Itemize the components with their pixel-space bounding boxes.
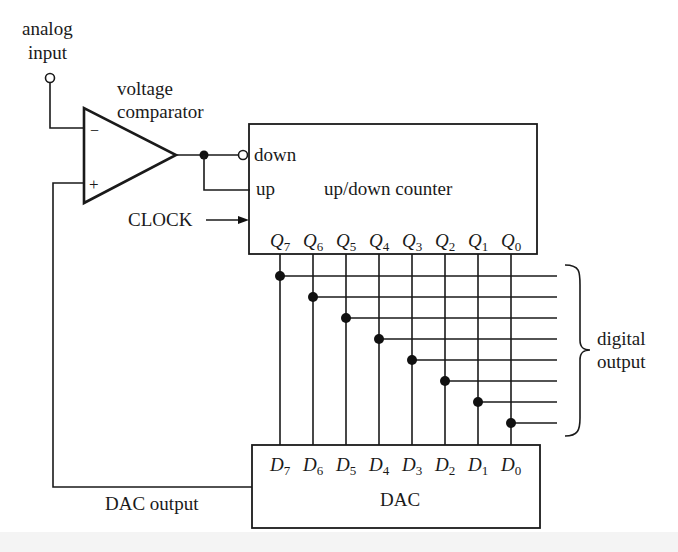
page-bottom-strip [0,532,678,552]
minus-sign: − [90,122,99,139]
analog-input-terminal [46,74,85,129]
dac-output-label: DAC output [105,493,199,514]
comparator-label-2: comparator [117,101,204,122]
svg-text:Q7: Q7 [270,230,291,254]
input-terminal-icon [46,74,55,83]
analog-input-label-2: input [28,42,68,63]
svg-text:D6: D6 [302,454,324,478]
clock-arrow-icon [238,216,249,224]
digital-output-brace-icon [565,265,590,436]
svg-text:D7: D7 [269,454,291,478]
svg-text:Q1: Q1 [468,230,488,254]
digital-output-label-1: digital [597,328,646,349]
svg-text:Q0: Q0 [501,230,521,254]
dac-box [252,445,540,528]
digital-output-label-2: output [597,351,646,372]
svg-text:D5: D5 [335,454,356,478]
clock-input [206,216,249,224]
svg-text:Q4: Q4 [369,230,390,254]
plus-sign: + [89,175,99,194]
svg-text:D4: D4 [368,454,390,478]
voltage-comparator: − + [84,108,176,203]
clock-label: CLOCK [128,209,193,230]
svg-text:Q2: Q2 [435,230,455,254]
digital-output-wires [280,276,557,423]
svg-text:Q5: Q5 [336,230,356,254]
dac-label: DAC [380,489,420,510]
counter-label: up/down counter [324,178,453,199]
counter-output-labels: Q7 Q6 Q5 Q4 Q3 Q2 Q1 Q0 [270,230,521,254]
svg-text:D2: D2 [434,454,455,478]
analog-input-wire [50,83,84,129]
svg-text:D0: D0 [500,454,521,478]
inverter-bubble-icon [239,151,248,160]
svg-text:Q6: Q6 [303,230,324,254]
up-input-label: up [256,178,275,199]
bus-vertical-wires [280,254,511,445]
comparator-label-1: voltage [117,78,173,99]
dac-input-labels: D7 D6 D5 D4 D3 D2 D1 D0 [269,454,521,478]
svg-text:D1: D1 [467,454,488,478]
analog-input-label-1: analog [22,18,73,39]
comparator-output [176,151,250,191]
svg-text:D3: D3 [401,454,422,478]
adc-diagram: − + [0,0,678,552]
down-input-label: down [254,144,297,165]
tap-junction-dots [275,271,516,428]
svg-text:Q3: Q3 [402,230,422,254]
